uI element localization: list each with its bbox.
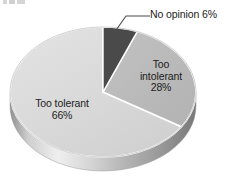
slice-label-too-tolerant-name: Too tolerant	[16, 98, 108, 110]
slice-label-too-tolerant-percent: 66%	[16, 110, 108, 122]
slice-label-no-opinion-text: No opinion 6%	[150, 9, 226, 21]
chart-canvas: Too tolerant 66% Too intolerant 28% No o…	[0, 0, 227, 179]
slice-label-too-intolerant-percent: 28%	[122, 82, 200, 94]
slice-label-too-intolerant: Too intolerant 28%	[122, 59, 200, 94]
slice-label-too-tolerant: Too tolerant 66%	[16, 98, 108, 121]
slice-label-no-opinion: No opinion 6%	[150, 9, 226, 21]
slice-label-too-intolerant-line1: Too	[122, 59, 200, 71]
